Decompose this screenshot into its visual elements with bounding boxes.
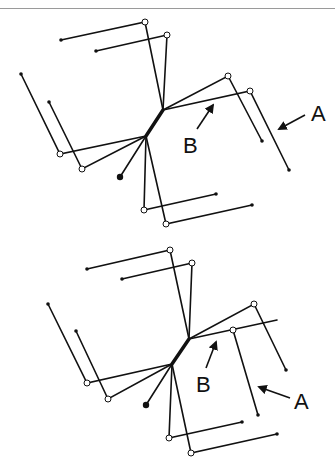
bottom-end-dots [46,267,288,436]
bottom-structure [48,250,286,453]
top-label-b: B [183,133,198,158]
top-structure [21,22,289,224]
top-annotation-arrows [197,105,305,129]
top-label-a: A [311,101,326,126]
molecular-diagram: A B A B [0,0,335,471]
bottom-annotation-arrows [206,342,290,398]
bottom-label-a: A [294,389,309,414]
bottom-label-b: B [196,372,211,397]
